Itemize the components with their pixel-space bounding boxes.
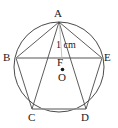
vertex-label-B: B xyxy=(3,52,10,63)
vertex-label-C: C xyxy=(28,112,35,123)
geometry-figure: A B C D E F O 1 cm xyxy=(0,0,118,128)
vertex-label-A: A xyxy=(54,8,62,19)
vertex-label-D: D xyxy=(81,112,89,123)
diagonal-AC xyxy=(32,22,59,109)
side-BC xyxy=(16,58,32,109)
side-DE xyxy=(86,58,102,109)
vertex-label-E: E xyxy=(104,52,111,63)
point-label-O: O xyxy=(58,72,66,83)
measurement-label-1cm: 1 cm xyxy=(56,40,76,50)
point-label-F: F xyxy=(57,57,63,68)
